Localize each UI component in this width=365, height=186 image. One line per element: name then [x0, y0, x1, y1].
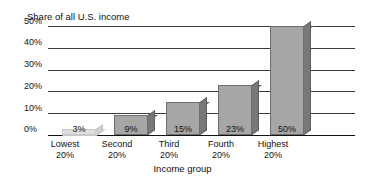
x-tick-line1: Highest — [258, 139, 289, 149]
y-tick-label-10: 10% — [24, 103, 50, 113]
bar-side-face — [304, 21, 311, 135]
value-label-second-20: 9% — [114, 124, 148, 134]
x-tick-label-third-20: Third 20% — [145, 139, 193, 161]
x-tick-line1: Lowest — [51, 139, 80, 149]
value-label-fourth-20: 23% — [218, 124, 252, 134]
y-tick-label-50: 50% — [24, 16, 50, 26]
x-tick-label-fourth-20: Fourth 20% — [197, 139, 245, 161]
x-tick-line2: 20% — [197, 150, 245, 161]
bar-side-face — [200, 97, 207, 135]
x-tick-label-lowest-20: Lowest 20% — [41, 139, 89, 161]
x-tick-line2: 20% — [249, 150, 297, 161]
bar-highest-20[interactable] — [270, 26, 304, 135]
value-label-lowest-20: 3% — [62, 124, 96, 134]
y-tick-label-0: 0% — [24, 124, 50, 134]
bar-side-face — [148, 111, 155, 135]
value-label-highest-20: 50% — [270, 124, 304, 134]
x-tick-label-second-20: Second 20% — [93, 139, 141, 161]
x-axis-title: Income group — [0, 163, 365, 174]
bar-chart-figure: Share of all U.S. income 50% 40% 30% 20%… — [0, 0, 365, 186]
y-tick-label-20: 20% — [24, 81, 50, 91]
x-tick-line1: Second — [102, 139, 133, 149]
x-tick-line2: 20% — [93, 150, 141, 161]
x-tick-line2: 20% — [145, 150, 193, 161]
y-tick-label-30: 30% — [24, 59, 50, 69]
x-tick-label-highest-20: Highest 20% — [249, 139, 297, 161]
bar-side-face — [252, 80, 259, 135]
plot-area: 3% 9% 15% 23% 50% — [48, 26, 355, 135]
y-tick-label-40: 40% — [24, 37, 50, 47]
x-tick-line1: Fourth — [208, 139, 234, 149]
x-tick-line1: Third — [159, 139, 180, 149]
bar-front-face — [270, 26, 304, 135]
x-tick-line2: 20% — [41, 150, 89, 161]
value-label-third-20: 15% — [166, 124, 200, 134]
